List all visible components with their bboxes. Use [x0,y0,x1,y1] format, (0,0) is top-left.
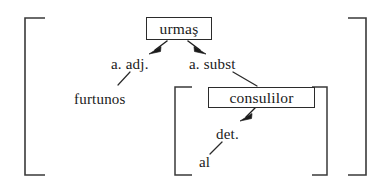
bracket-diagram-figure: urmaş consulilor a. adj. a. subst det. f… [0,0,391,186]
edge-label-a-adj: a. adj. [111,57,149,72]
outer-bracket-left [25,18,45,175]
link-det-to-al [210,142,222,154]
node-box-consulilor: consulilor [208,87,315,108]
node-label-consulilor: consulilor [230,90,294,106]
link-a-adj-to-furtunos [118,72,130,85]
terminal-label-furtunos: furtunos [74,92,126,107]
terminal-label-al: al [199,155,210,170]
node-box-urmas: urmaş [146,17,212,40]
node-label-urmas: urmaş [160,21,199,37]
edge-label-a-subst: a. subst [189,57,236,72]
arrow-urmas-to-a-subst [188,41,206,54]
outer-bracket-right [348,18,366,175]
arrow-urmas-to-a-adj [149,41,167,54]
arrow-consulilor-to-det [240,108,255,121]
inner-bracket-left [175,87,192,175]
link-a-subst-to-consulilor [233,72,257,86]
edge-label-det: det. [216,127,239,142]
